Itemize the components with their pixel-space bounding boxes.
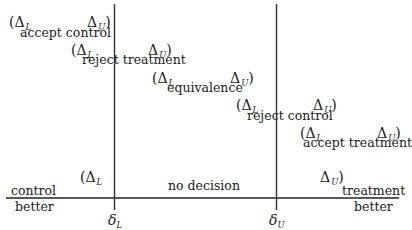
interval-2-label: reject treatment xyxy=(82,54,186,67)
interval-3-label: equivalence xyxy=(167,82,243,95)
upper-threshold-label: δU xyxy=(269,213,285,230)
interval-6-label: no decision xyxy=(168,180,240,193)
interval-5-label: accept treatment xyxy=(303,137,412,150)
axis-left-label-bottom: better xyxy=(15,201,54,214)
axis-left-label-top: control xyxy=(11,185,56,198)
interval-6-upper-bound: ΔU) xyxy=(320,170,344,187)
lower-threshold-label: δL xyxy=(108,213,122,230)
interval-6-lower-bound: (ΔL xyxy=(80,170,102,187)
axis-right-label-bottom: better xyxy=(354,201,393,214)
axis-right-label-top: treatment xyxy=(342,185,405,198)
interval-1-label: accept control xyxy=(20,27,111,40)
interval-4-label: reject control xyxy=(247,110,333,123)
